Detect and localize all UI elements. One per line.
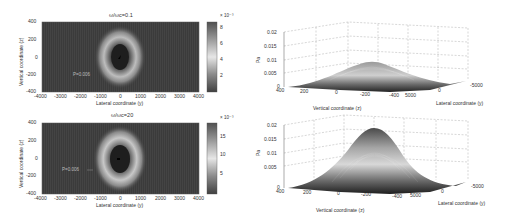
y-tick: 0 <box>35 156 38 161</box>
v-tick: -400 <box>392 194 402 199</box>
z-tick: 0.01 <box>267 58 277 63</box>
heatmap-top-left: ω/ωc=0.1 <box>0 0 260 108</box>
l-tick: 0 <box>441 189 444 194</box>
y-tick: 400 <box>28 19 36 24</box>
surface-top-right: 0.02 0.015 0.01 0.005 0 Pa 400 200 0 -20… <box>260 0 513 108</box>
l-tick: 0 <box>438 88 441 93</box>
v-tick: 400 <box>276 88 284 93</box>
y-axis-label: Vertical coordinate (z) <box>19 38 24 86</box>
l-tick: 5000 <box>410 193 421 198</box>
colorbar-tick: 8 <box>220 25 223 30</box>
x-tick: -4000 <box>34 196 47 201</box>
z-axis-label: Pa <box>256 57 261 63</box>
z-tick: 0.01 <box>267 151 277 156</box>
lateral-axis-label: Lateral coordinate (y) <box>438 201 485 206</box>
colorbar-tick: 5 <box>220 171 223 176</box>
heatmap-bottom-left: ω/ωc=20 <box>0 108 260 220</box>
x-tick: -4000 <box>34 94 47 99</box>
v-tick: -400 <box>389 93 399 98</box>
v-tick: 0 <box>335 90 338 95</box>
y-tick: 0 <box>35 55 38 60</box>
l-tick: -5000 <box>471 184 484 189</box>
v-tick: 200 <box>303 190 311 195</box>
x-tick: -3000 <box>54 196 67 201</box>
x-axis-label: Lateral coordinate (y) <box>96 101 143 106</box>
v-tick: 400 <box>276 189 284 194</box>
x-tick: 4000 <box>193 94 204 99</box>
colorbar-tick: 15 <box>220 134 226 139</box>
x-tick: 1000 <box>135 94 146 99</box>
v-tick: -200 <box>361 192 371 197</box>
vertical-axis-label: Vertical coordinate (z) <box>316 208 364 213</box>
x-tick: 3000 <box>174 196 185 201</box>
x-tick: 0 <box>119 196 122 201</box>
x-tick: 4000 <box>193 196 204 201</box>
annotation: P=0.006 <box>62 168 79 173</box>
x-tick: 0 <box>119 94 122 99</box>
v-tick: -200 <box>360 92 370 97</box>
y-axis-label: Vertical coordinate (z) <box>19 140 24 188</box>
x-tick: 3000 <box>174 94 185 99</box>
x-tick: -3000 <box>54 94 67 99</box>
l-tick: 5000 <box>405 93 416 98</box>
surface-bottom-right: 0.02 0.015 0.01 0.005 0 Pa 400 200 0 -20… <box>260 108 513 220</box>
l-tick: -5000 <box>470 83 483 88</box>
z-tick: 0.02 <box>267 30 277 35</box>
x-tick: 2000 <box>155 94 166 99</box>
v-tick: 0 <box>337 191 340 196</box>
z-tick: 0.015 <box>264 137 277 142</box>
z-tick: 0.02 <box>267 123 277 128</box>
y-tick: -200 <box>26 173 36 178</box>
colorbar-tick: 10 <box>220 152 226 157</box>
x-tick: -1000 <box>94 94 107 99</box>
y-tick: 400 <box>28 120 36 125</box>
colorbar-scale: × 10⁻³ <box>220 116 233 121</box>
colorbar-tick: 2 <box>220 73 223 78</box>
colorbar-tick: 4 <box>220 57 223 62</box>
x-axis-label: Lateral coordinate (y) <box>96 203 143 208</box>
colorbar-scale: × 10⁻³ <box>220 14 233 19</box>
v-tick: 200 <box>300 89 308 94</box>
z-tick: 0.005 <box>264 165 277 170</box>
surface-plot <box>260 0 513 108</box>
z-tick: 0.015 <box>264 44 277 49</box>
x-tick: -2000 <box>74 94 87 99</box>
x-tick: -1000 <box>94 196 107 201</box>
z-axis-label: Pa <box>256 150 261 156</box>
x-tick: 1000 <box>135 196 146 201</box>
lateral-axis-label: Lateral coordinate (y) <box>436 101 483 106</box>
x-tick: -2000 <box>74 196 87 201</box>
z-tick: 0.005 <box>264 71 277 76</box>
y-tick: -200 <box>26 72 36 77</box>
y-tick: 200 <box>28 138 36 143</box>
annotation: P=0.006 <box>73 73 90 78</box>
y-tick: 200 <box>28 37 36 42</box>
colorbar-tick: 6 <box>220 41 223 46</box>
x-tick: 2000 <box>155 196 166 201</box>
